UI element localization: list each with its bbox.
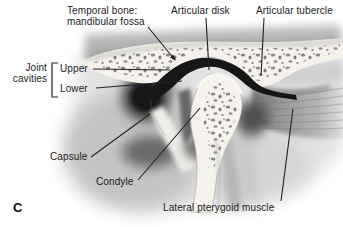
label-lower-cavity: Lower — [60, 83, 88, 94]
figure-panel-letter: C — [13, 200, 22, 215]
label-capsule: Capsule — [50, 151, 87, 162]
label-joint-cavities-line2: cavities — [2, 73, 47, 84]
joint-cavities-bracket — [52, 63, 58, 97]
label-condyle: Condyle — [96, 176, 133, 187]
label-upper-cavity: Upper — [60, 63, 88, 74]
label-joint-cavities-line1: Joint — [2, 62, 47, 73]
label-temporal-bone-line2: mandibular fossa — [67, 16, 145, 27]
tmj-illustration — [0, 0, 343, 227]
label-articular-tubercle: Articular tubercle — [256, 5, 333, 16]
label-lateral-pterygoid-muscle: Lateral pterygoid muscle — [163, 202, 274, 213]
label-temporal-bone-line1: Temporal bone: — [67, 5, 145, 16]
disk-highlight — [244, 68, 248, 72]
label-joint-cavities: Joint cavities — [2, 62, 47, 84]
tmj-figure: Temporal bone: mandibular fossa Articula… — [0, 0, 343, 227]
label-temporal-bone: Temporal bone: mandibular fossa — [67, 5, 145, 27]
label-articular-disk: Articular disk — [171, 5, 230, 16]
